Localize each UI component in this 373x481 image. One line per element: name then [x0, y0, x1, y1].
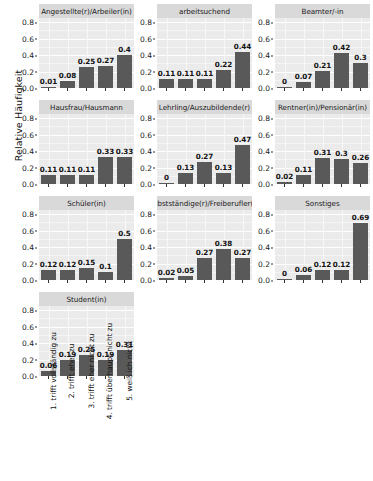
x-tick-mark — [166, 280, 167, 283]
facet-strip-label: Rentner(in)/Pensionär(in) — [278, 103, 367, 112]
y-axis-ticks: 0.00.20.40.60.8 — [136, 18, 155, 88]
x-tick-mark — [48, 280, 49, 283]
facet-panel: Sonstiges0.00.20.40.60.800.060.120.120.6… — [254, 196, 372, 292]
bar-value-label: 0.31 — [314, 148, 331, 157]
bar-series: 00.060.120.120.69 — [275, 210, 370, 280]
bar-slot: 0.11 — [60, 114, 75, 184]
facet-strip: Hausfrau/Hausmann — [39, 100, 134, 114]
y-tick-label: 0.6 — [140, 34, 152, 43]
x-tick-mark — [284, 88, 285, 91]
y-tick-label: 0.4 — [22, 147, 34, 156]
bar-value-label: 0.21 — [314, 61, 331, 70]
x-tick-mark — [86, 280, 87, 283]
x-tick-mark — [303, 88, 304, 91]
facet-axis-area: 0.00.20.40.60.80.120.120.150.10.5 — [18, 210, 136, 292]
y-axis-ticks: 0.00.20.40.60.8 — [254, 114, 273, 184]
bar-value-label: 0.27 — [97, 56, 114, 65]
bar-slot: 0.26 — [353, 114, 368, 184]
bar — [60, 81, 75, 88]
facet-strip: Beamter/-in — [275, 4, 370, 18]
x-axis-ticks — [39, 88, 134, 92]
y-tick-label: 0.2 — [258, 259, 270, 268]
x-axis-ticks — [275, 88, 370, 92]
bar — [60, 175, 75, 184]
facet-strip-label: Sonstiges — [305, 199, 339, 208]
bar-value-label: 0.33 — [116, 147, 133, 156]
bar-value-label: 0.11 — [78, 165, 95, 174]
bar-value-label: 0.01 — [40, 77, 57, 86]
bar-slot: 0.11 — [296, 114, 311, 184]
y-tick-label: 0.8 — [22, 210, 34, 219]
plot-area: 00.070.210.420.3 — [275, 18, 370, 88]
x-tick-mark — [303, 184, 304, 187]
y-tick-label: 0.2 — [22, 259, 34, 268]
bar-value-label: 0.42 — [333, 43, 350, 52]
facet-strip: Selbstständige(r)/Freiberufler(in) — [157, 196, 252, 210]
facet-strip-label: Lehrling/Auszubildende(r) — [159, 103, 250, 112]
bar — [178, 79, 193, 88]
x-tick-mark — [48, 184, 49, 187]
x-axis-ticks — [275, 184, 370, 188]
y-tick-label: 0.4 — [22, 243, 34, 252]
facet-strip: Student(in) — [39, 292, 134, 306]
bar-value-label: 0.44 — [234, 42, 251, 51]
facet-axis-area: 0.00.20.40.60.80.110.110.110.330.33 — [18, 114, 136, 196]
y-axis-ticks: 0.00.20.40.60.8 — [18, 210, 37, 280]
x-tick-label-wrap: 3. trifft eher nicht zu — [79, 371, 94, 476]
y-tick-label: 0.2 — [258, 67, 270, 76]
bar-series: 0.110.110.110.220.44 — [157, 18, 252, 88]
bar-value-label: 0.1 — [99, 262, 111, 271]
bar-slot: 0.3 — [334, 114, 349, 184]
y-tick-label: 0.8 — [140, 18, 152, 27]
bar — [98, 66, 113, 88]
y-tick-label: 0.0 — [22, 84, 34, 93]
bar — [197, 258, 212, 280]
bar-slot: 0.05 — [178, 210, 193, 280]
facet-panel: Lehrling/Auszubildende(r)0.00.20.40.60.8… — [136, 100, 254, 196]
y-tick-label: 0.2 — [140, 67, 152, 76]
bar-slot: 0.11 — [159, 18, 174, 88]
plot-area: 00.060.120.120.69 — [275, 210, 370, 280]
y-tick-label: 0.4 — [140, 243, 152, 252]
bar-value-label: 0.27 — [196, 248, 213, 257]
x-axis-ticks — [157, 184, 252, 188]
y-tick-label: 0.6 — [258, 130, 270, 139]
y-tick-label: 0.8 — [140, 114, 152, 123]
y-tick-label: 0.0 — [140, 276, 152, 285]
y-tick-label: 0.2 — [22, 67, 34, 76]
facet-axis-area: 0.00.20.40.60.800.060.120.120.69 — [254, 210, 372, 292]
y-tick-label: 0.2 — [22, 355, 34, 364]
y-tick-label: 0.0 — [22, 372, 34, 381]
bar-slot: 0.3 — [353, 18, 368, 88]
facet-strip-label: Beamter/-in — [302, 7, 344, 16]
x-tick-mark — [360, 88, 361, 91]
y-tick-label: 0.2 — [258, 163, 270, 172]
bar-slot: 0.33 — [117, 114, 132, 184]
bar — [117, 55, 132, 88]
bar-value-label: 0.08 — [59, 71, 76, 80]
x-tick-label: 1. trifft vollständig zu — [49, 332, 58, 410]
bar-slot: 0.27 — [197, 210, 212, 280]
facet-axis-area: 0.00.20.40.60.80.020.110.310.30.26 — [254, 114, 372, 196]
bar-value-label: 0.5 — [118, 229, 130, 238]
bar-slot: 0.69 — [353, 210, 368, 280]
x-tick-label-wrap: 2. trifft eher zu — [60, 371, 75, 476]
x-axis-ticks — [157, 280, 252, 284]
bar — [334, 270, 349, 280]
bar-series: 00.130.270.130.47 — [157, 114, 252, 184]
bar-slot: 0.01 — [41, 18, 56, 88]
x-tick-mark — [185, 88, 186, 91]
x-tick-label-wrap: 5. weiß ich nicht — [117, 371, 132, 476]
bar-value-label: 0.3 — [335, 149, 347, 158]
bar-slot: 0.42 — [334, 18, 349, 88]
facet-strip-label: Schüler(in) — [67, 199, 106, 208]
facet-panel: Beamter/-in0.00.20.40.60.800.070.210.420… — [254, 4, 372, 100]
bar-series: 0.010.080.250.270.4 — [39, 18, 134, 88]
y-tick-label: 0.4 — [140, 51, 152, 60]
x-tick-mark — [67, 88, 68, 91]
x-tick-mark — [223, 88, 224, 91]
bar-slot: 0.11 — [41, 114, 56, 184]
bar-value-label: 0.05 — [177, 266, 194, 275]
bar-value-label: 0.11 — [59, 165, 76, 174]
bar-value-label: 0.22 — [215, 60, 232, 69]
